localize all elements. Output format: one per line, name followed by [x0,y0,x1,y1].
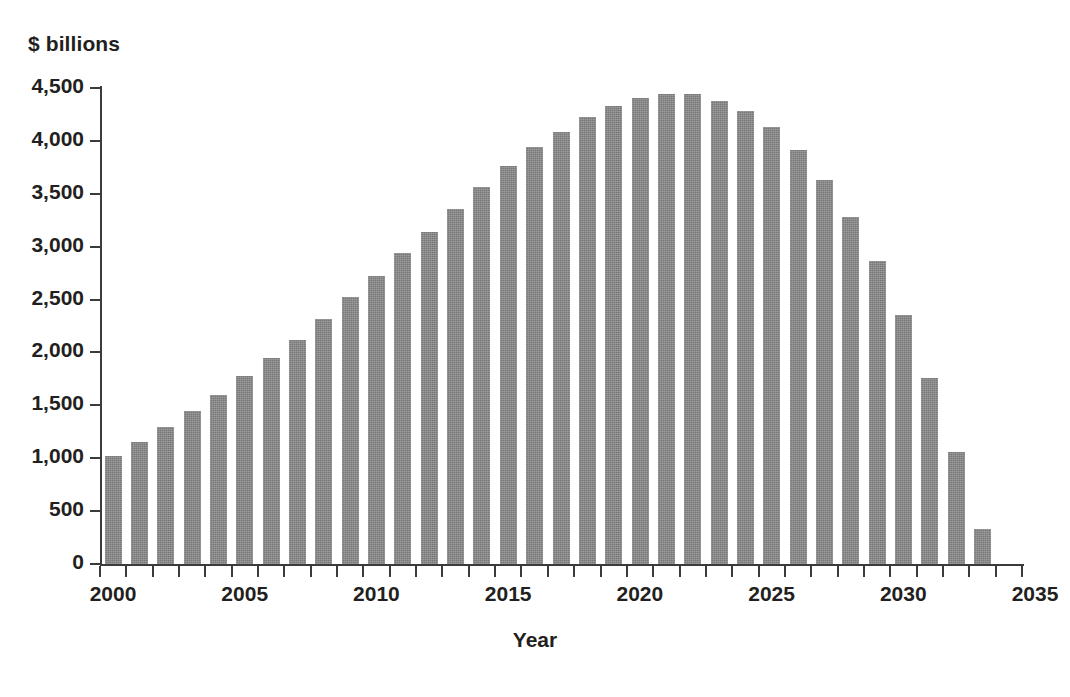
x-axis-tick [520,566,522,577]
y-axis-tick-label: 1,000 [0,444,84,468]
x-axis-tick [1021,566,1023,577]
y-axis-tick-label: 2,500 [0,286,84,310]
x-axis-line [100,564,1024,566]
y-axis-tick-label: 1,500 [0,391,84,415]
x-axis-tick-label: 2035 [1012,582,1059,606]
bar [421,232,438,564]
bar [315,319,332,564]
y-axis-tick-label: 4,500 [0,74,84,98]
x-axis-tick [231,566,233,577]
x-axis-tick [441,566,443,577]
bar [394,253,411,564]
x-axis-tick [626,566,628,577]
bar [632,98,649,564]
x-axis-tick [889,566,891,577]
x-axis-tick-label: 2020 [616,582,663,606]
x-axis-tick [362,566,364,577]
y-axis-tick-label: 500 [0,497,84,521]
y-axis-tick-label: 4,000 [0,127,84,151]
x-axis-tick [178,566,180,577]
bar [790,150,807,564]
x-axis-tick [731,566,733,577]
bar [816,180,833,564]
x-axis-tick [415,566,417,577]
bar [184,411,201,564]
bar [737,111,754,564]
bar [684,94,701,564]
y-axis-unit-label: $ billions [28,32,120,56]
bar [131,442,148,564]
bar [895,315,912,564]
x-axis-tick [336,566,338,577]
x-axis-tick [283,566,285,577]
bar [711,101,728,564]
x-axis-tick [863,566,865,577]
bar [236,376,253,564]
x-axis-tick-label: 2005 [221,582,268,606]
x-axis-tick [547,566,549,577]
x-axis-tick-label: 2010 [353,582,400,606]
x-axis-tick [942,566,944,577]
x-axis-tick [99,566,101,577]
x-axis-tick [968,566,970,577]
y-axis-tick-label: 0 [0,550,84,574]
x-axis-tick [204,566,206,577]
x-axis-title: Year [0,628,1070,652]
x-axis-tick-label: 2025 [748,582,795,606]
bar [869,261,886,564]
bar [921,378,938,564]
bar [579,117,596,564]
x-axis-tick [679,566,681,577]
y-axis-tick-label: 2,000 [0,338,84,362]
bar [763,127,780,564]
plot-area [100,88,1022,564]
bar [263,358,280,564]
bar [948,452,965,564]
x-axis-tick [758,566,760,577]
bar [447,209,464,564]
bar [658,94,675,564]
x-axis-tick [389,566,391,577]
x-axis-tick [837,566,839,577]
bar [105,456,122,564]
bar [526,147,543,564]
y-axis-tick-label: 3,500 [0,180,84,204]
x-axis-tick [494,566,496,577]
x-axis-tick [652,566,654,577]
bar [974,529,991,564]
bar [473,187,490,564]
x-axis-tick [257,566,259,577]
bar [368,276,385,564]
x-axis-tick-label: 2000 [90,582,137,606]
x-axis-tick [916,566,918,577]
y-axis-tick-label: 3,000 [0,233,84,257]
bar [157,427,174,565]
x-axis-tick [600,566,602,577]
bar [605,106,622,564]
bar [210,395,227,564]
bar [842,217,859,564]
x-axis-tick [995,566,997,577]
bar [553,132,570,564]
x-axis-tick [784,566,786,577]
x-axis-tick [125,566,127,577]
x-axis-tick [152,566,154,577]
bar [289,340,306,564]
bar [500,166,517,564]
x-axis-tick [573,566,575,577]
x-axis-tick [310,566,312,577]
x-axis-tick [810,566,812,577]
x-axis-tick-label: 2030 [880,582,927,606]
x-axis-tick-label: 2015 [485,582,532,606]
x-axis-tick [705,566,707,577]
bar [342,297,359,564]
bar-chart-figure: $ billions 05001,0001,5002,0002,5003,000… [0,0,1070,697]
x-axis-tick [468,566,470,577]
